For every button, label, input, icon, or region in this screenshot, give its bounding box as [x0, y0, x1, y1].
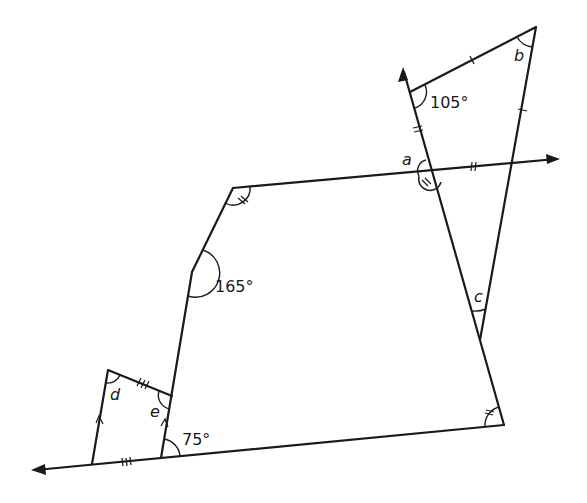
- transversal-line: [398, 67, 504, 425]
- label-d: d: [110, 385, 121, 404]
- label-165: 165°: [215, 277, 254, 296]
- arc-a: [418, 160, 426, 176]
- label-105: 105°: [430, 93, 469, 112]
- geometry-diagram: 105° 165° 75° a b c d e: [0, 0, 587, 503]
- triangle: [410, 27, 536, 340]
- small-quadrilateral: [92, 370, 172, 464]
- tick-marks: [96, 56, 527, 466]
- label-a: a: [402, 150, 412, 169]
- arc-75: [164, 439, 180, 456]
- lower-arrow-line: [31, 425, 504, 475]
- label-75: 75°: [182, 430, 210, 449]
- arc-d: [106, 375, 120, 383]
- label-b: b: [514, 46, 524, 65]
- arc-c: [472, 309, 486, 311]
- label-c: c: [474, 287, 483, 306]
- main-polygon: [161, 188, 233, 458]
- label-e: e: [150, 402, 160, 421]
